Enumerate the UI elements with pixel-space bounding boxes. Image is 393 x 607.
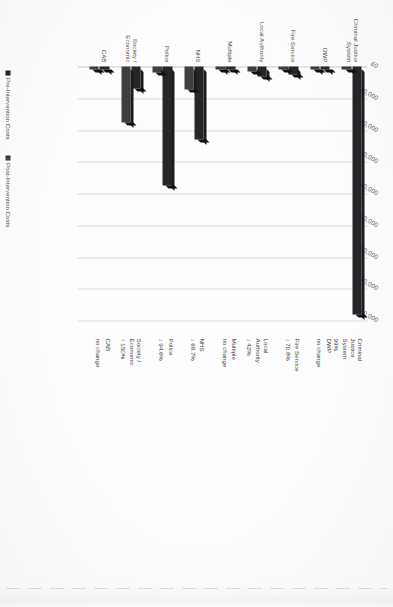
annotation-row: DWPno change	[315, 338, 332, 458]
category-label: Society / Economic	[124, 10, 138, 62]
bar-post	[152, 66, 161, 72]
bar-post	[247, 66, 256, 71]
annotation-row: Multipleno change	[220, 338, 237, 458]
annotation-name: Fire Service	[293, 338, 300, 458]
annotation-delta: no change	[315, 338, 322, 458]
annotation-delta: ↓ 42%	[244, 338, 251, 458]
scanned-page: £0£10,000£20,000£30,000£40,000£50,000£60…	[0, 0, 393, 607]
annotation-row: Criminal Justice System99%	[332, 338, 364, 458]
annotation-delta: no change	[94, 338, 101, 458]
annotation-name: CAB	[103, 338, 110, 458]
plot-area: £0£10,000£20,000£30,000£40,000£50,000£60…	[83, 66, 367, 320]
annotation-delta: ↓ 70.8%	[283, 338, 290, 458]
category-label: CAB	[100, 10, 107, 62]
annotation-delta: ↓ 94.6%	[157, 338, 164, 458]
category-label: Criminal Justice System	[345, 10, 359, 62]
gridline	[77, 225, 367, 226]
annotation-delta: ↓ 68.7%	[189, 338, 196, 458]
annotation-row: Local Authority↓ 42%	[244, 338, 268, 458]
rotated-chart-canvas: £0£10,000£20,000£30,000£40,000£50,000£60…	[0, 0, 393, 607]
legend-item: Post-Intervention Costs	[4, 155, 11, 227]
bar-pre	[162, 66, 171, 185]
annotation-row: Society / Economic↑ 150%	[118, 338, 142, 458]
annotation-row: Fire Service↓ 70.8%	[283, 338, 300, 458]
gridline	[77, 130, 367, 131]
bar-chart: £0£10,000£20,000£30,000£40,000£50,000£60…	[0, 0, 393, 607]
legend-swatch-icon	[5, 70, 10, 75]
category-label: Fire Service	[289, 10, 296, 62]
gridline	[77, 193, 367, 194]
annotation-name: NHS	[198, 338, 205, 458]
bar-post	[278, 66, 287, 69]
annotation-delta: no change	[220, 338, 227, 458]
category-label: NHS	[194, 10, 201, 62]
bar-pre	[99, 66, 108, 69]
chart-legend: Pre-Intervention CostsPost-Intervention …	[4, 70, 11, 227]
bar-post	[121, 66, 130, 122]
annotation-row: NHS↓ 68.7%	[189, 338, 206, 458]
category-label: Multiple	[226, 10, 233, 62]
annotation-row: Police↓ 94.6%	[157, 338, 174, 458]
annotation-name: Society / Economic	[128, 338, 143, 458]
bar-post	[341, 66, 350, 69]
annotation-delta: ↑ 150%	[118, 338, 125, 458]
gridline	[77, 320, 367, 321]
legend-swatch-icon	[5, 155, 10, 160]
category-label: Police	[163, 10, 170, 62]
bar-post	[310, 66, 319, 69]
bar-pre	[352, 66, 361, 314]
annotation-name: Local Authority	[254, 338, 269, 458]
gridline	[77, 161, 367, 162]
annotation-name: Criminal Justice System	[341, 338, 363, 458]
annotation-name: Multiple	[230, 338, 237, 458]
bar-pre	[225, 66, 234, 69]
annotation-name: Police	[166, 338, 173, 458]
annotation-row: CABno change	[94, 338, 111, 458]
annotation-name: DWP	[324, 338, 331, 458]
annotation-delta: 99%	[332, 338, 339, 458]
bar-post	[215, 66, 224, 69]
gridline	[77, 257, 367, 258]
legend-item: Pre-Intervention Costs	[4, 70, 11, 139]
category-label: DWP	[320, 10, 327, 62]
legend-label: Post-Intervention Costs	[4, 163, 11, 227]
gridline	[77, 288, 367, 289]
bar-post	[89, 66, 98, 69]
category-label: Local Authority	[257, 10, 264, 62]
bar-post	[184, 66, 193, 89]
legend-label: Pre-Intervention Costs	[4, 78, 11, 140]
